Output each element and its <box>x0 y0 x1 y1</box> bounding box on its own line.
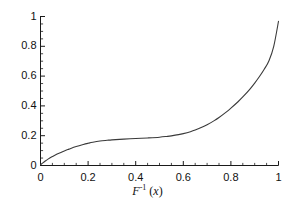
x-tick-label: 0.6 <box>163 172 203 183</box>
x-tick-label: 0.8 <box>211 172 251 183</box>
x-axis-title-base: F <box>132 184 139 198</box>
x-tick-label: 0.4 <box>116 172 156 183</box>
x-axis-title-argument: (x) <box>149 184 162 198</box>
y-tick-label: 0.4 <box>21 100 36 111</box>
y-tick-label: 0 <box>30 160 36 171</box>
x-tick-label: 0.2 <box>68 172 108 183</box>
x-tick-label: 1 <box>259 172 296 183</box>
y-tick-label: 1 <box>30 11 36 22</box>
chart-figure: 00.20.40.60.81 00.20.40.60.81 F-1 (x) <box>0 0 295 209</box>
x-tick-label: 0 <box>21 172 61 183</box>
data-series-line <box>41 21 279 164</box>
axes-group <box>40 16 279 166</box>
x-axis-title: F-1 (x) <box>0 184 295 197</box>
y-tick-label: 0.6 <box>21 70 36 81</box>
y-tick-label: 0.2 <box>21 130 36 141</box>
y-tick-label: 0.8 <box>21 40 36 51</box>
